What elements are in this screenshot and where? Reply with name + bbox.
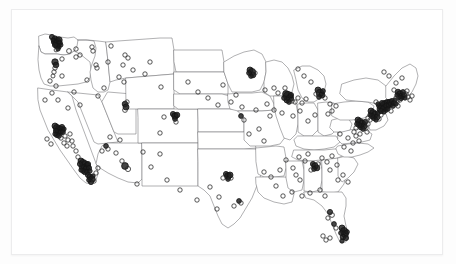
map-data-point[interactable] [300, 194, 304, 198]
map-data-point[interactable] [239, 114, 244, 119]
map-data-point[interactable] [346, 180, 350, 184]
map-data-point[interactable] [114, 151, 118, 155]
map-data-point[interactable] [345, 230, 350, 235]
map-data-point[interactable] [325, 160, 329, 164]
map-data-point[interactable] [328, 236, 332, 240]
map-data-point[interactable] [51, 74, 55, 78]
map-data-point[interactable] [290, 190, 294, 194]
map-data-point[interactable] [72, 90, 76, 94]
map-data-point[interactable] [125, 100, 129, 104]
map-data-point[interactable] [79, 168, 83, 172]
map-data-point[interactable] [109, 44, 113, 48]
map-data-point[interactable] [247, 71, 252, 76]
map-data-point[interactable] [340, 239, 344, 243]
map-data-point[interactable] [342, 145, 346, 149]
map-data-point[interactable] [59, 43, 63, 47]
map-data-point[interactable] [158, 152, 162, 156]
map-data-point[interactable] [74, 149, 78, 153]
map-data-point[interactable] [106, 60, 110, 64]
map-data-point[interactable] [283, 86, 287, 90]
map-data-point[interactable] [306, 119, 310, 123]
map-data-point[interactable] [54, 48, 58, 52]
map-data-point[interactable] [387, 74, 391, 78]
map-data-point[interactable] [148, 60, 152, 64]
map-data-point[interactable] [293, 100, 297, 104]
map-data-point[interactable] [321, 234, 325, 238]
map-data-point[interactable] [63, 134, 67, 138]
map-data-point[interactable] [77, 161, 82, 166]
map-data-point[interactable] [268, 114, 272, 118]
map-data-point[interactable] [208, 185, 212, 189]
map-data-point[interactable] [366, 116, 370, 120]
map-data-point[interactable] [96, 166, 100, 170]
map-data-point[interactable] [346, 136, 350, 140]
map-data-point[interactable] [357, 139, 361, 143]
map-data-point[interactable] [336, 178, 340, 182]
map-data-point[interactable] [94, 171, 98, 175]
map-data-point[interactable] [254, 108, 258, 112]
map-data-point[interactable] [217, 195, 221, 199]
map-data-point[interactable] [229, 176, 233, 180]
map-data-point[interactable] [186, 80, 190, 84]
map-data-point[interactable] [294, 173, 298, 177]
map-data-point[interactable] [121, 63, 125, 67]
map-data-point[interactable] [351, 141, 355, 145]
map-data-point[interactable] [330, 154, 334, 158]
map-data-point[interactable] [263, 88, 267, 92]
map-data-point[interactable] [165, 178, 169, 182]
map-data-point[interactable] [106, 147, 110, 151]
map-data-point[interactable] [49, 142, 53, 146]
map-data-point[interactable] [309, 80, 313, 84]
map-data-point[interactable] [272, 86, 276, 90]
map-data-point[interactable] [45, 137, 49, 141]
map-data-point[interactable] [296, 96, 300, 100]
map-data-point[interactable] [123, 108, 128, 113]
map-data-point[interactable] [280, 111, 284, 115]
map-data-point[interactable] [281, 194, 285, 198]
map-data-point[interactable] [278, 168, 282, 172]
map-data-point[interactable] [291, 114, 295, 118]
map-data-point[interactable] [262, 170, 266, 174]
map-data-point[interactable] [48, 79, 52, 83]
map-data-point[interactable] [308, 191, 312, 195]
map-data-point[interactable] [221, 176, 225, 180]
map-data-point[interactable] [284, 158, 288, 162]
map-data-point[interactable] [320, 156, 324, 160]
map-data-point[interactable] [125, 166, 130, 171]
map-data-point[interactable] [242, 118, 246, 122]
map-data-point[interactable] [67, 49, 72, 54]
map-data-point[interactable] [262, 139, 266, 143]
map-data-point[interactable] [60, 57, 64, 61]
map-data-point[interactable] [143, 72, 147, 76]
map-data-point[interactable] [54, 84, 58, 88]
map-data-point[interactable] [392, 88, 396, 92]
map-data-point[interactable] [302, 74, 306, 78]
map-data-point[interactable] [95, 66, 99, 70]
map-data-point[interactable] [68, 132, 72, 136]
map-data-point[interactable] [282, 96, 287, 101]
map-data-point[interactable] [92, 179, 96, 183]
map-data-point[interactable] [206, 96, 210, 100]
map-data-point[interactable] [117, 75, 121, 79]
map-data-point[interactable] [135, 182, 139, 186]
map-data-point[interactable] [309, 168, 313, 172]
map-data-point[interactable] [314, 92, 318, 96]
us-choropleth-svg[interactable] [12, 10, 444, 256]
map-data-point[interactable] [276, 91, 280, 95]
map-container[interactable] [12, 10, 444, 256]
map-data-point[interactable] [349, 149, 353, 153]
map-data-point[interactable] [269, 175, 273, 179]
map-data-point[interactable] [328, 168, 332, 172]
map-data-point[interactable] [126, 56, 130, 60]
map-data-point[interactable] [91, 49, 95, 53]
map-data-point[interactable] [274, 184, 278, 188]
map-data-point[interactable] [229, 100, 233, 104]
map-data-point[interactable] [257, 127, 261, 131]
map-data-point[interactable] [122, 80, 126, 84]
map-data-point[interactable] [338, 132, 342, 136]
map-data-point[interactable] [108, 135, 112, 139]
map-data-point[interactable] [330, 109, 334, 113]
map-data-point[interactable] [78, 103, 82, 107]
map-data-point[interactable] [316, 162, 320, 166]
map-data-point[interactable] [240, 105, 244, 109]
